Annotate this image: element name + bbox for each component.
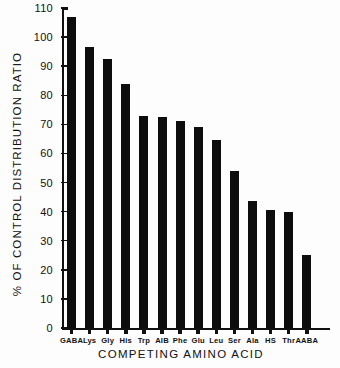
y-tick-label: 110 [35,2,53,14]
bar [302,255,311,328]
x-tick-label: AABA [295,336,318,345]
bar [85,47,94,328]
x-tick-label: Glu [192,336,205,345]
y-tick-label: 20 [40,264,53,276]
x-tick-mark [142,329,146,334]
bar [139,116,148,328]
x-tick-mark [287,329,291,334]
bar [248,201,257,328]
x-tick-mark [160,329,164,334]
bar [121,84,130,328]
plot-area: 0102030405060708090100110 GABALysGlyHisT… [62,8,330,329]
bar [176,121,185,328]
x-tick-label: Thr [282,336,295,345]
x-tick-label: GABA [60,336,83,345]
bar [230,171,239,328]
bar [67,17,76,328]
bar-chart-figure: % OF CONTROL DISTRIBUTION RATIO 01020304… [0,0,340,368]
x-tick-mark [178,329,182,334]
y-tick-label: 100 [34,31,53,43]
bar [158,117,167,328]
y-tick-label: 0 [47,322,53,334]
x-tick-label: Ser [228,336,241,345]
x-tick-mark [269,329,273,334]
y-tick-label: 80 [40,89,53,101]
bar [194,127,203,328]
bar [266,210,275,328]
y-tick-label: 70 [40,118,53,130]
x-axis-title: COMPETING AMINO ACID [0,348,340,360]
x-tick-label: Phe [173,336,188,345]
y-tick-mark [61,7,68,8]
x-tick-label: Trp [138,336,150,345]
x-tick-mark [251,329,255,334]
y-axis-line [62,8,64,329]
x-tick-mark [196,329,200,334]
x-tick-mark [233,329,237,334]
y-tick-label: 60 [40,147,53,159]
x-tick-label: HS [265,336,276,345]
x-tick-mark [215,329,219,334]
y-tick-label: 40 [40,206,53,218]
bar [284,212,293,328]
x-tick-mark [106,329,110,334]
bar [212,140,221,328]
x-tick-label: Leu [209,336,223,345]
y-tick-label: 30 [40,235,53,247]
x-tick-mark [124,329,128,334]
x-tick-mark [88,329,92,334]
bar [103,59,112,328]
y-tick-label: 10 [40,293,53,305]
x-tick-label: AIB [155,336,169,345]
x-tick-label: Lys [83,336,96,345]
x-tick-mark [70,329,74,334]
x-tick-label: Gly [101,336,114,345]
x-tick-mark [305,329,309,334]
x-tick-label: Ala [246,336,258,345]
y-axis-title: % OF CONTROL DISTRIBUTION RATIO [11,19,23,329]
y-tick-label: 50 [40,177,53,189]
y-tick-label: 90 [40,60,53,72]
x-tick-label: His [120,336,132,345]
